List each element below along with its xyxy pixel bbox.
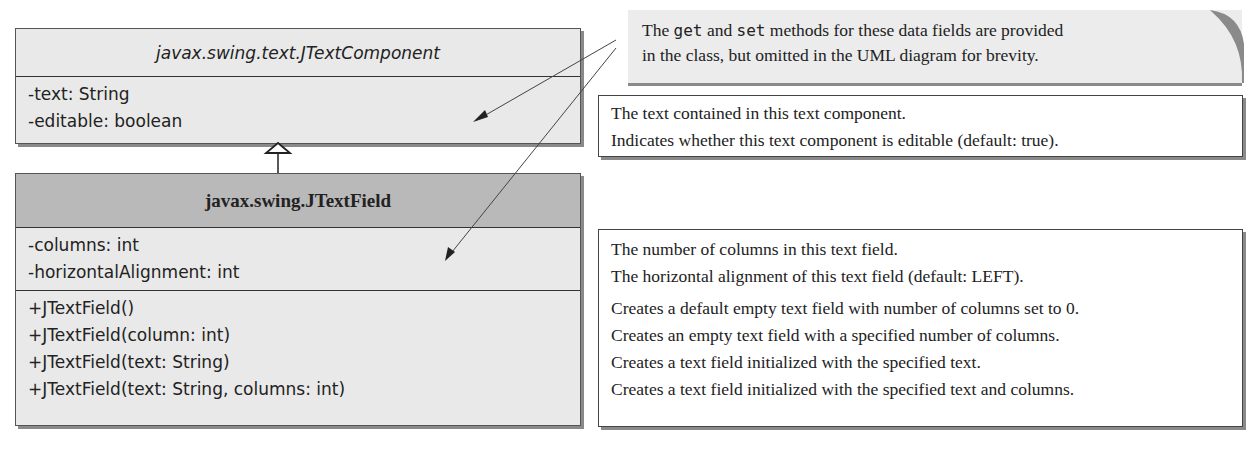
method-constructor: +JTextField(text: String, columns: int) xyxy=(28,376,580,403)
description-constructor: Creates a default empty text field with … xyxy=(611,295,1242,322)
method-constructor: +JTextField(column: int) xyxy=(28,322,580,349)
class-name-jtextcomponent: javax.swing.text.JTextComponent xyxy=(16,29,580,77)
uml-class-jtextfield: javax.swing.JTextField -columns: int -ho… xyxy=(15,173,581,426)
description-columns: The number of columns in this text field… xyxy=(611,236,1242,263)
method-constructor: +JTextField() xyxy=(28,295,580,322)
class-name-jtextfield: javax.swing.JTextField xyxy=(16,174,580,228)
description-editable: Indicates whether this text component is… xyxy=(611,127,1242,154)
field-horizontal-alignment: -horizontalAlignment: int xyxy=(28,259,580,286)
note-text: methods for these data fields are provid… xyxy=(765,20,1063,40)
description-horizontal-alignment: The horizontal alignment of this text fi… xyxy=(611,263,1242,290)
note-text: The xyxy=(642,20,674,40)
superclass-descriptions: The text contained in this text componen… xyxy=(598,95,1243,157)
description-constructor: Creates a text field initialized with th… xyxy=(611,376,1242,403)
description-text: The text contained in this text componen… xyxy=(611,100,1242,127)
field-text: -text: String xyxy=(28,81,580,108)
note-line-1: The get and set methods for these data f… xyxy=(642,18,1242,43)
note-line-2: in the class, but omitted in the UML dia… xyxy=(642,43,1242,68)
note-code-get: get xyxy=(674,21,703,40)
fields-section: -columns: int -horizontalAlignment: int xyxy=(16,228,580,290)
note-code-set: set xyxy=(737,21,766,40)
description-constructor: Creates an empty text field with a speci… xyxy=(611,322,1242,349)
note-callout: The get and set methods for these data f… xyxy=(628,10,1242,83)
note-text: and xyxy=(703,20,737,40)
methods-section: +JTextField() +JTextField(column: int) +… xyxy=(16,290,580,405)
field-editable: -editable: boolean xyxy=(28,108,580,135)
field-columns: -columns: int xyxy=(28,232,580,259)
fields-section: -text: String -editable: boolean xyxy=(16,77,580,137)
description-constructor: Creates a text field initialized with th… xyxy=(611,349,1242,376)
uml-class-jtextcomponent: javax.swing.text.JTextComponent -text: S… xyxy=(15,28,581,144)
inheritance-triangle-icon xyxy=(266,143,290,153)
method-constructor: +JTextField(text: String) xyxy=(28,349,580,376)
subclass-descriptions: The number of columns in this text field… xyxy=(598,229,1243,427)
